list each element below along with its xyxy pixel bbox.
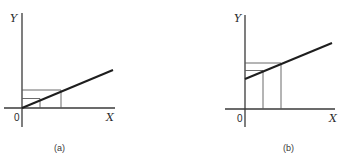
- y-axis-label-b: Y: [234, 12, 243, 25]
- regression-line-a: [22, 70, 113, 108]
- panel-b: Y 0 X (b): [225, 12, 338, 153]
- origin-label-b: 0: [237, 113, 243, 124]
- y-axis-label-a: Y: [10, 12, 19, 25]
- x-axis-label-a: X: [105, 111, 115, 124]
- diagram-canvas: Y 0 X (a) Y 0 X (b): [0, 0, 349, 161]
- caption-b: (b): [283, 143, 294, 153]
- x-axis-label-b: X: [328, 112, 338, 125]
- panel-a: Y 0 X (a): [4, 12, 115, 153]
- regression-line-b: [245, 43, 332, 79]
- origin-label-a: 0: [14, 112, 20, 123]
- caption-a: (a): [54, 143, 65, 153]
